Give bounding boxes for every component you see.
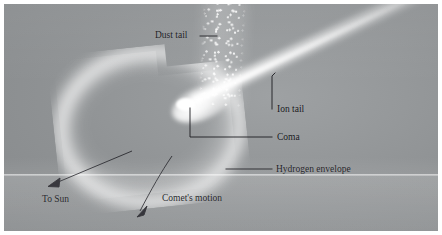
arrow-to-sun-shaft <box>51 151 132 185</box>
label-dust-tail: Dust tail <box>155 31 187 41</box>
arrow-to-sun-head <box>48 178 60 187</box>
leader-ion-tail <box>272 73 275 109</box>
comet-structure-diagram: Dust tail Ion tail Coma Hydrogen envelop… <box>0 0 442 235</box>
label-ion-tail: Ion tail <box>277 105 304 115</box>
label-to-sun: To Sun <box>42 195 69 205</box>
label-hydrogen-envelope: Hydrogen envelope <box>276 165 351 175</box>
leader-coma <box>190 108 272 137</box>
label-coma: Coma <box>277 133 300 143</box>
sky-background: Dust tail Ion tail Coma Hydrogen envelop… <box>4 4 440 235</box>
label-comets-motion: Comet's motion <box>162 194 222 204</box>
